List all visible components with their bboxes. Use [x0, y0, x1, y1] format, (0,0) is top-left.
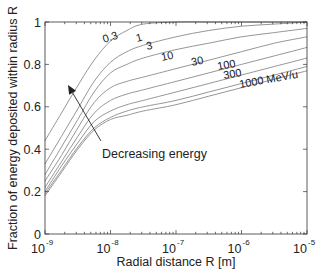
x-axis-label: Radial distance R [m] — [117, 255, 236, 269]
y-tick-label: 0.4 — [24, 143, 41, 157]
y-tick-label: 0.6 — [24, 100, 41, 114]
y-tick-label: 1 — [34, 16, 41, 30]
x-tick-exponent: -8 — [112, 238, 120, 247]
y-tick-label: 0 — [34, 228, 41, 242]
curve-label: 30 — [190, 54, 204, 68]
x-tick-label: 10 — [162, 242, 176, 256]
annotation-label: Decreasing energy — [102, 147, 208, 161]
x-tick-label: 10 — [31, 242, 45, 256]
y-tick-label: 0.8 — [24, 58, 41, 72]
x-tick-exponent: -5 — [308, 238, 316, 247]
background — [0, 0, 322, 273]
x-tick-label: 10 — [293, 242, 307, 256]
x-tick-label: 10 — [228, 242, 242, 256]
y-tick-label: 0.2 — [24, 185, 41, 199]
x-tick-exponent: -9 — [46, 238, 54, 247]
curve-label: 10 — [160, 49, 174, 63]
x-tick-exponent: -7 — [177, 238, 185, 247]
x-tick-exponent: -6 — [243, 238, 251, 247]
x-tick-label: 10 — [97, 242, 111, 256]
y-axis-label: Fraction of energy deposited within radi… — [6, 6, 20, 250]
energy-deposition-chart: 0.31310301003001000 MeV/u 00.20.40.60.81… — [0, 0, 322, 273]
